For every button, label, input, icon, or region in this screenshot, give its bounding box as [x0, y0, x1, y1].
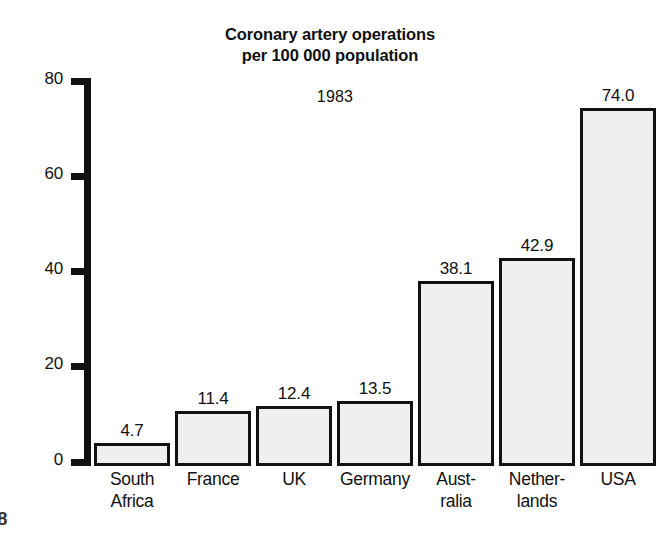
- x-label-usa: USA: [568, 468, 660, 490]
- y-tick-label-20: 20: [3, 355, 63, 372]
- x-label-south-africa-line-2: Africa: [82, 490, 182, 512]
- bar-rect-uk[interactable]: [256, 406, 332, 466]
- y-axis-spine: [84, 78, 91, 466]
- chart-title-line-1: Coronary artery operations: [225, 25, 435, 43]
- chart-title-line-2: per 100 000 population: [90, 45, 570, 66]
- y-tick-label-80: 80: [3, 70, 63, 87]
- bar-rect-south-africa[interactable]: [94, 443, 170, 466]
- bar-value-usa: 74.0: [568, 87, 660, 104]
- bar-rect-australia[interactable]: [418, 281, 494, 466]
- y-tick-mark-80: [71, 78, 85, 85]
- y-tick-mark-20: [71, 363, 85, 370]
- y-tick-label-0: 0: [3, 451, 63, 468]
- chart-title: Coronary artery operations per 100 000 p…: [90, 24, 570, 66]
- y-tick-mark-0: [71, 459, 85, 466]
- y-tick-mark-40: [71, 268, 85, 275]
- x-label-germany-line-1: Germany: [340, 469, 410, 489]
- x-label-uk-line-1: UK: [282, 469, 306, 489]
- bar-value-south-africa: 4.7: [82, 422, 182, 439]
- bar-rect-netherlands[interactable]: [499, 258, 575, 466]
- x-label-france-line-1: France: [187, 469, 240, 489]
- bar-value-netherlands: 42.9: [487, 237, 587, 254]
- bar-value-australia: 38.1: [406, 260, 506, 277]
- bar-value-germany: 13.5: [325, 380, 425, 397]
- x-label-usa-line-1: USA: [600, 469, 635, 489]
- y-tick-mark-60: [71, 173, 85, 180]
- bar-rect-france[interactable]: [175, 411, 251, 466]
- bar-rect-usa[interactable]: [580, 108, 656, 466]
- y-tick-label-40: 40: [3, 260, 63, 277]
- plot-area: 4.7 11.4 12.4 13.5 38.1 42.9 74.0: [91, 78, 643, 466]
- x-axis-category-labels: South Africa France UK Germany Aust- ral…: [91, 468, 643, 538]
- x-label-netherlands-line-2: lands: [487, 490, 587, 512]
- x-label-south-africa-line-1: South: [110, 469, 154, 489]
- x-label-australia-line-1: Aust-: [436, 469, 475, 489]
- bar-rect-germany[interactable]: [337, 401, 413, 466]
- page-number-mark: 8: [0, 508, 7, 532]
- y-tick-label-60: 60: [3, 165, 63, 182]
- x-label-netherlands-line-1: Nether-: [509, 469, 565, 489]
